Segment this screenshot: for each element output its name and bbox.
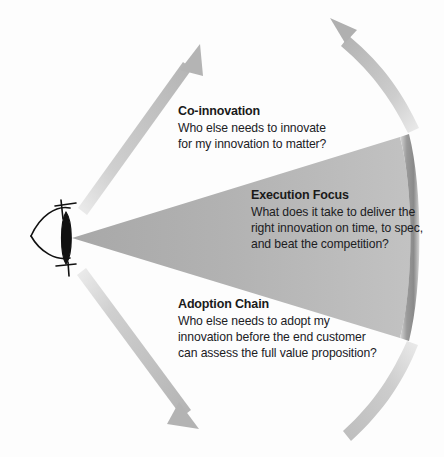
execution-focus-line-2: right innovation on time, to spec, [251, 221, 423, 237]
co-innovation-outer-arc [330, 18, 419, 133]
co-innovation-line-1: Who else needs to innovate [178, 121, 326, 137]
adoption-chain-body: Who else needs to adopt my innovation be… [178, 314, 377, 362]
execution-focus-title: Execution Focus [251, 188, 423, 202]
execution-focus-text-block: Execution Focus What does it take to del… [251, 188, 423, 253]
adoption-chain-line-1: Who else needs to adopt my [178, 314, 377, 330]
co-innovation-line-2: for my innovation to matter? [178, 137, 326, 153]
execution-focus-line-3: and beat the competition? [251, 237, 423, 253]
execution-focus-line-1: What does it take to deliver the [251, 205, 423, 221]
execution-focus-body: What does it take to deliver the right i… [251, 205, 423, 253]
innovation-blind-spots-diagram: Co-innovation Who else needs to innovate… [0, 0, 444, 457]
eye-icon [31, 200, 76, 276]
co-innovation-text-block: Co-innovation Who else needs to innovate… [178, 104, 326, 153]
adoption-chain-title: Adoption Chain [178, 297, 377, 311]
adoption-chain-line-2: innovation before the end customer [178, 330, 377, 346]
co-innovation-title: Co-innovation [178, 104, 326, 118]
adoption-chain-text-block: Adoption Chain Who else needs to adopt m… [178, 297, 377, 362]
co-innovation-body: Who else needs to innovate for my innova… [178, 121, 326, 153]
adoption-chain-line-3: can assess the full value proposition? [178, 346, 377, 362]
